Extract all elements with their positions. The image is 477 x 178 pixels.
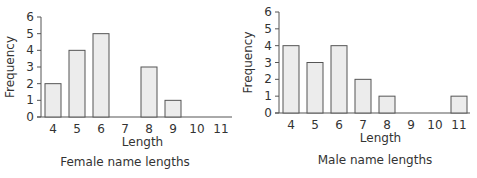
bar-chart-female: 01234564567891011FrequencyLengthFemale n… <box>3 10 232 169</box>
bar-5 <box>307 63 323 114</box>
x-tick-label: 4 <box>287 118 295 132</box>
bar-8 <box>141 67 157 117</box>
x-tick-label: 11 <box>451 118 466 132</box>
x-tick-label: 9 <box>407 118 415 132</box>
y-tick-label: 2 <box>26 77 34 91</box>
y-tick-label: 5 <box>264 22 272 36</box>
x-axis-label: Length <box>360 131 401 145</box>
y-axis-label: Frequency <box>3 36 17 98</box>
bar-8 <box>379 96 395 113</box>
bar-5 <box>69 50 85 117</box>
bar-9 <box>165 100 181 117</box>
y-tick-label: 0 <box>26 110 34 124</box>
y-tick-label: 6 <box>264 5 272 19</box>
y-tick-label: 2 <box>264 72 272 86</box>
x-tick-label: 8 <box>145 122 153 136</box>
y-tick-label: 3 <box>264 56 272 70</box>
x-tick-label: 10 <box>189 122 204 136</box>
x-tick-label: 8 <box>383 118 391 132</box>
bar-11 <box>451 96 467 113</box>
chart-caption: Female name lengths <box>60 155 190 169</box>
x-tick-label: 11 <box>213 122 228 136</box>
y-tick-label: 4 <box>26 43 34 57</box>
y-tick-label: 1 <box>26 93 34 107</box>
bar-7 <box>355 79 371 113</box>
x-tick-label: 6 <box>97 122 105 136</box>
y-tick-label: 0 <box>264 106 272 120</box>
x-tick-label: 4 <box>49 122 57 136</box>
x-tick-label: 9 <box>169 122 177 136</box>
bar-4 <box>45 84 61 117</box>
x-tick-label: 7 <box>121 122 129 136</box>
chart-caption: Male name lengths <box>318 153 433 167</box>
bar-4 <box>283 46 299 113</box>
x-tick-label: 5 <box>311 118 319 132</box>
bar-6 <box>93 34 109 117</box>
x-axis-label: Length <box>122 135 163 149</box>
bar-chart-male: 01234564567891011FrequencyLengthMale nam… <box>241 5 470 167</box>
x-tick-label: 6 <box>335 118 343 132</box>
y-tick-label: 3 <box>26 60 34 74</box>
y-tick-label: 6 <box>26 10 34 24</box>
x-tick-label: 5 <box>73 122 81 136</box>
x-tick-label: 7 <box>359 118 367 132</box>
x-tick-label: 10 <box>427 118 442 132</box>
y-axis-label: Frequency <box>241 32 255 94</box>
y-tick-label: 5 <box>26 27 34 41</box>
charts-canvas: 01234564567891011FrequencyLengthFemale n… <box>0 0 477 178</box>
y-tick-label: 4 <box>264 39 272 53</box>
bar-6 <box>331 46 347 113</box>
y-tick-label: 1 <box>264 89 272 103</box>
